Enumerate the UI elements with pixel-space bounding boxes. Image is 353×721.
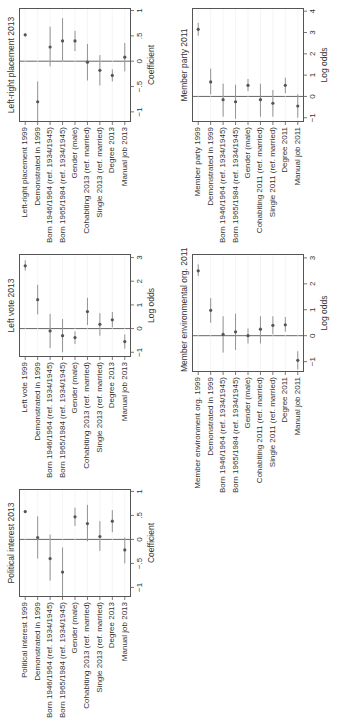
x-tick-label: 2 bbox=[308, 44, 317, 64]
x-axis-label: Coefficient bbox=[146, 8, 156, 122]
chart-left-right-placement: Left-right placement 2013Left-right plac… bbox=[5, 0, 175, 246]
x-tick-label: 0 bbox=[308, 326, 317, 346]
category-label: Born 1965/1984 (ref. 1934/1945) bbox=[231, 377, 240, 493]
x-tick-label: −1 bbox=[135, 342, 144, 362]
x-tick-label: −1 bbox=[308, 108, 317, 128]
category-label: Demonstrated in 1999 bbox=[33, 362, 42, 441]
chart-title: Member environmental org. 2011 bbox=[179, 254, 189, 372]
category-label: Manual job 2013 bbox=[120, 602, 129, 661]
x-tick-label: 1 bbox=[308, 300, 317, 320]
category-label: Member environment org. 1999 bbox=[193, 377, 202, 489]
category-label: Gender (male) bbox=[70, 602, 79, 654]
category-label: Cohabiting 2011 (ref. married) bbox=[255, 127, 264, 233]
plot-area bbox=[192, 254, 304, 372]
category-label: Born 1965/1984 (ref. 1934/1945) bbox=[58, 362, 67, 478]
x-tick-label: 2 bbox=[135, 271, 144, 291]
category-label: Single 2013 (ref. married) bbox=[95, 362, 104, 453]
category-label: Demonstrated in 1999 bbox=[206, 377, 215, 456]
category-label: Born 1965/1984 (ref. 1934/1945) bbox=[58, 602, 67, 718]
plot-area bbox=[192, 8, 304, 122]
x-tick-label: 3 bbox=[308, 23, 317, 43]
x-tick-label: 0 bbox=[135, 51, 144, 71]
category-label: Cohabiting 2011 (ref. married) bbox=[255, 377, 264, 483]
category-label: Born 1965/1984 (ref. 1934/1945) bbox=[58, 127, 67, 243]
x-axis-label: Log odds bbox=[319, 254, 329, 372]
x-tick-label: 1 bbox=[308, 65, 317, 85]
category-label: Gender (male) bbox=[243, 377, 252, 429]
category-label: Political interest 1999 bbox=[20, 602, 29, 678]
category-label: Demonstrated in 1999 bbox=[33, 127, 42, 206]
x-tick-label: 2 bbox=[308, 274, 317, 294]
x-tick-label: −.5 bbox=[135, 77, 144, 97]
category-label: Degree 2011 bbox=[280, 377, 289, 423]
x-tick-label: .5 bbox=[135, 26, 144, 46]
category-label: Degree 2011 bbox=[280, 127, 289, 173]
x-tick-label: 3 bbox=[135, 248, 144, 268]
x-tick-label: 0 bbox=[135, 529, 144, 549]
chart-title: Member party 2011 bbox=[179, 8, 189, 122]
chart-title: Political interest 2013 bbox=[6, 489, 16, 597]
category-label: Born 1946/1964 (ref. 1934/1945) bbox=[218, 377, 227, 493]
category-label: Born 1946/1964 (ref. 1934/1945) bbox=[45, 602, 54, 718]
category-label: Single 2011 (ref. married) bbox=[268, 127, 277, 217]
page: Political interest 2013Political interes… bbox=[0, 0, 353, 721]
chart-member-environmental-org: Member environmental org. 2011Member env… bbox=[178, 246, 348, 496]
x-tick-label: 0 bbox=[135, 319, 144, 339]
category-label: Cohabiting 2013 (ref. married) bbox=[82, 127, 91, 234]
category-label: Gender (male) bbox=[70, 362, 79, 414]
x-tick-label: .5 bbox=[135, 505, 144, 525]
chart-title: Left vote 2013 bbox=[6, 254, 16, 357]
x-tick-label: 4 bbox=[308, 1, 317, 21]
category-label: Left-right placement 1999 bbox=[20, 127, 29, 218]
x-tick-label: 1 bbox=[135, 295, 144, 315]
x-tick-label: 0 bbox=[308, 86, 317, 106]
x-axis-label: Log odds bbox=[319, 8, 329, 122]
category-label: Degree 2013 bbox=[107, 127, 116, 173]
x-tick-label: 1 bbox=[135, 481, 144, 501]
category-label: Cohabiting 2013 (ref. married) bbox=[82, 362, 91, 469]
category-label: Manual job 2011 bbox=[293, 377, 302, 436]
category-label: Single 2013 (ref. married) bbox=[95, 602, 104, 693]
x-axis-label: Coefficient bbox=[146, 489, 156, 597]
x-tick-label: −.5 bbox=[135, 553, 144, 573]
x-tick-label: −1 bbox=[308, 352, 317, 372]
x-tick-label: −1 bbox=[135, 102, 144, 122]
category-label: Manual job 2013 bbox=[120, 362, 129, 421]
chart-political-interest: Political interest 2013Political interes… bbox=[5, 481, 175, 721]
category-label: Manual job 2013 bbox=[120, 127, 129, 186]
plot-area bbox=[19, 8, 131, 122]
category-label: Member party 1999 bbox=[193, 127, 202, 196]
category-label: Born 1946/1964 (ref. 1934/1945) bbox=[218, 127, 227, 243]
category-label: Cohabiting 2013 (ref. married) bbox=[82, 602, 91, 709]
category-label: Demonstrated in 1999 bbox=[33, 602, 42, 681]
category-label: Born 1946/1964 (ref. 1934/1945) bbox=[45, 127, 54, 243]
category-label: Left vote 1999 bbox=[20, 362, 29, 413]
category-label: Born 1946/1964 (ref. 1934/1945) bbox=[45, 362, 54, 478]
chart-left-vote: Left vote 2013Left vote 1999Demonstrated… bbox=[5, 246, 175, 481]
category-label: Single 2011 (ref. married) bbox=[268, 377, 277, 467]
x-tick-label: −1 bbox=[135, 577, 144, 597]
chart-title: Left-right placement 2013 bbox=[6, 8, 16, 122]
category-label: Degree 2013 bbox=[107, 602, 116, 648]
x-tick-label: 3 bbox=[308, 248, 317, 268]
category-label: Gender (male) bbox=[70, 127, 79, 179]
x-tick-label: 1 bbox=[135, 1, 144, 21]
chart-member-party: Member party 2011Member party 1999Demons… bbox=[178, 0, 348, 246]
category-label: Demonstrated in 1999 bbox=[206, 127, 215, 206]
category-label: Degree 2013 bbox=[107, 362, 116, 408]
category-label: Manual job 2011 bbox=[293, 127, 302, 186]
plot-area bbox=[19, 489, 131, 597]
category-label: Single 2013 (ref. married) bbox=[95, 127, 104, 218]
plot-area bbox=[19, 254, 131, 357]
category-label: Born 1965/1984 (ref. 1934/1945) bbox=[231, 127, 240, 243]
category-label: Gender (male) bbox=[243, 127, 252, 179]
x-axis-label: Log odds bbox=[146, 254, 156, 357]
